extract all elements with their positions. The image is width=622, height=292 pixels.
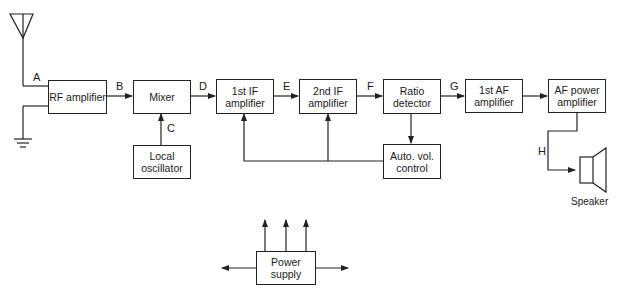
label-e: E <box>283 80 290 92</box>
label-g: G <box>450 80 459 92</box>
rf-amplifier-block: RF amplifier <box>48 80 107 114</box>
mixer-block: Mixer <box>133 80 191 114</box>
label-a: A <box>33 71 40 83</box>
first-af-amplifier-block: 1st AF amplifier <box>465 79 523 113</box>
label-c: C <box>167 122 175 134</box>
auto-volume-control-block: Auto. vol. control <box>383 144 441 179</box>
speaker-icon <box>580 148 606 192</box>
block-diagram: RF amplifier Mixer Local oscillator 1st … <box>0 0 622 292</box>
first-if-amplifier-block: 1st IF amplifier <box>216 79 274 114</box>
power-supply-block: Power supply <box>256 251 316 285</box>
label-b: B <box>116 80 123 92</box>
af-power-amplifier-block: AF power amplifier <box>548 79 606 113</box>
ratio-detector-block: Ratio detector <box>383 79 441 114</box>
local-oscillator-block: Local oscillator <box>133 145 191 179</box>
diagram-wiring <box>0 0 622 292</box>
label-d: D <box>199 80 207 92</box>
speaker-label: Speaker <box>571 196 608 207</box>
label-f: F <box>367 80 374 92</box>
antenna-icon <box>10 14 48 86</box>
label-h: H <box>538 145 546 157</box>
ground-icon <box>14 106 48 147</box>
second-if-amplifier-block: 2nd IF amplifier <box>299 79 357 114</box>
